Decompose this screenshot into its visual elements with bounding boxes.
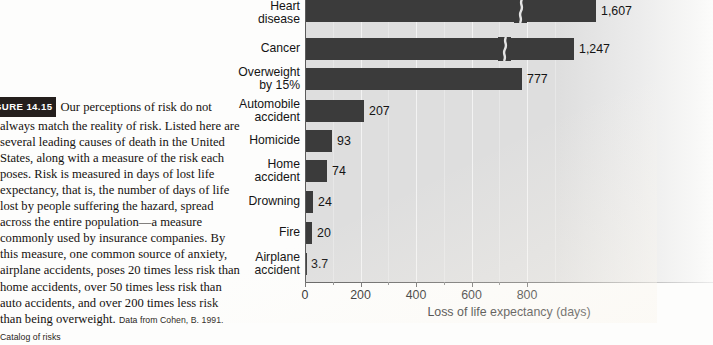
value-label: 93 (337, 134, 351, 148)
category-label: Airplane accident (214, 251, 300, 278)
category-label: Fire (214, 226, 300, 239)
value-label: 20 (317, 226, 331, 240)
axis-break-marker (514, 0, 527, 23)
x-axis-tick (472, 282, 473, 287)
figure-caption: GURE 14.15Our perceptions of risk do not… (0, 98, 243, 345)
bar (306, 222, 312, 244)
bar (306, 38, 574, 60)
bar (306, 130, 332, 152)
x-axis-tick (527, 282, 528, 287)
bar (306, 160, 327, 182)
value-label: 1,247 (579, 42, 610, 56)
category-label: Homicide (214, 134, 300, 147)
value-label: 777 (527, 72, 548, 86)
figure-caption-text: Our perceptions of risk do not always ma… (0, 100, 240, 326)
category-label: Overweight by 15% (214, 66, 300, 93)
x-axis-tick-label: 800 (517, 288, 538, 302)
bar (306, 0, 596, 22)
bar (306, 191, 313, 213)
x-axis-minor-tick (388, 282, 389, 285)
category-label: Heart disease (214, 0, 300, 27)
x-axis-tick (416, 282, 417, 287)
x-axis-minor-tick (499, 282, 500, 285)
axis-break-marker (498, 37, 511, 61)
x-axis-title: Loss of life expectancy (days) (305, 305, 713, 319)
bar (306, 100, 364, 122)
value-label: 1,607 (601, 4, 632, 18)
x-axis-minor-tick (444, 282, 445, 285)
category-label: Drowning (214, 195, 300, 208)
x-axis-line (305, 282, 713, 283)
x-axis-tick (361, 282, 362, 287)
bar-chart: 0200400600800 Heart diseaseCancerOverwei… (222, 0, 657, 323)
x-axis-tick-label: 600 (461, 288, 482, 302)
x-axis-tick (305, 282, 306, 287)
x-axis-tick-label: 400 (406, 288, 427, 302)
x-axis-minor-tick (333, 282, 334, 285)
value-label: 24 (318, 195, 332, 209)
bar (306, 253, 307, 275)
value-label: 207 (369, 104, 390, 118)
value-label: 74 (332, 164, 346, 178)
bar (306, 68, 522, 90)
value-label: 3.7 (311, 257, 328, 271)
x-axis-tick-label: 200 (350, 288, 371, 302)
figure-number-badge: GURE 14.15 (0, 97, 56, 117)
category-label: Home accident (214, 158, 300, 185)
category-label: Cancer (214, 42, 300, 55)
category-label: Automobile accident (214, 98, 300, 125)
x-axis-tick-label: 0 (302, 288, 309, 302)
